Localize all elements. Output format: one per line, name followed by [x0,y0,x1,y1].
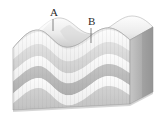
label-a-text: A [50,6,58,18]
block-diagram-figure: A B [0,0,167,120]
right-side-face-group [130,27,153,104]
label-b-text: B [88,15,95,27]
geologic-block-diagram: A B [0,0,167,120]
right-side-face-shadow [142,27,153,98]
